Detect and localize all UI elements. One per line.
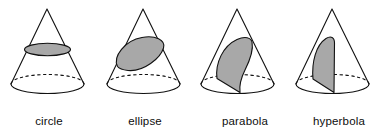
cone-parabola-group: parabola [201,9,274,127]
cone-ellipse-section-shape [116,37,163,71]
cone-parabola-label: parabola [222,115,268,127]
cone-circle-base-back-arc [11,75,84,85]
cone-ellipse-base-back-arc [107,75,180,84]
cone-parabola-section-shape [217,37,253,92]
cone-circle-base-front-arc [11,84,84,94]
cone-hyperbola-section-shape [313,37,335,92]
cone-ellipse-label: ellipse [128,115,162,127]
cone-circle-section-shape [25,43,71,55]
conic-sections-diagram: circle ellipse parabola hyperbola [0,0,382,138]
cone-ellipse-group: ellipse [107,9,180,127]
cone-circle-label: circle [35,115,63,127]
cone-hyperbola-group: hyperbola [296,9,369,127]
conic-sections-figure: circle ellipse parabola hyperbola [0,0,382,138]
cone-ellipse-base-front-arc [107,84,180,93]
cone-hyperbola-label: hyperbola [313,115,365,127]
cone-circle-group: circle [11,9,84,127]
